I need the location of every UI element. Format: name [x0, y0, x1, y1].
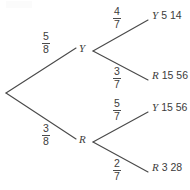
fraction-numerator: 3	[42, 123, 50, 135]
outcome-probability: 3 28	[162, 162, 182, 173]
fraction-denominator: 28	[171, 161, 183, 173]
outcome-Y-R: R 15 56	[152, 70, 188, 81]
fraction-denominator: 7	[113, 110, 121, 123]
branch-root-to-R	[6, 93, 76, 139]
fraction-numerator: 5	[161, 9, 167, 21]
fraction-numerator: 5	[42, 31, 50, 43]
fraction-numerator: 15	[161, 101, 173, 113]
outcome-node-letter: R	[152, 70, 159, 81]
probability-label-root-Y: 5 8	[42, 31, 50, 56]
probability-label-R-Y: 5 7	[113, 98, 121, 123]
outcome-R-R: R 3 28	[152, 162, 182, 173]
outcome-node-letter: R	[152, 162, 159, 173]
fraction-numerator: 4	[113, 6, 121, 18]
fraction-numerator: 15	[162, 69, 174, 81]
fraction-denominator: 7	[113, 170, 121, 183]
outcome-probability: 5 14	[161, 10, 181, 21]
fraction-numerator: 3	[162, 161, 168, 173]
outcome-node-letter: Y	[152, 10, 158, 21]
probability-tree-diagram: 5 8 3 8 Y R 4 7 3 7 5 7 2 7 Y 5 14 R	[0, 0, 190, 190]
fraction-denominator: 8	[42, 43, 50, 56]
outcome-Y-Y: Y 5 14	[152, 10, 182, 21]
probability-label-R-R: 2 7	[113, 158, 121, 183]
outcome-node-letter: Y	[152, 102, 158, 113]
outcome-probability: 15 56	[161, 102, 187, 113]
probability-label-Y-R: 3 7	[113, 66, 121, 91]
fraction-denominator: 56	[176, 101, 188, 113]
fraction-denominator: 8	[42, 135, 50, 148]
fraction-denominator: 14	[170, 9, 182, 21]
probability-label-Y-Y: 4 7	[113, 6, 121, 31]
branch-root-to-Y	[6, 48, 76, 93]
node-level1-Y: Y	[79, 43, 85, 54]
outcome-probability: 15 56	[162, 70, 188, 81]
fraction-denominator: 56	[176, 69, 188, 81]
outcome-R-Y: Y 15 56	[152, 102, 187, 113]
node-level1-R: R	[79, 134, 86, 145]
fraction-numerator: 3	[113, 66, 121, 78]
probability-label-root-R: 3 8	[42, 123, 50, 148]
fraction-numerator: 5	[113, 98, 121, 110]
fraction-denominator: 7	[113, 18, 121, 31]
fraction-numerator: 2	[113, 158, 121, 170]
fraction-denominator: 7	[113, 78, 121, 91]
